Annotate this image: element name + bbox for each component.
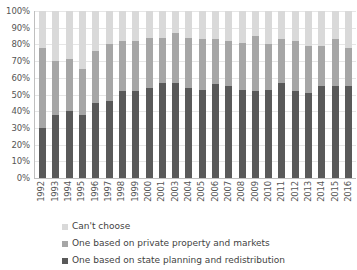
bar-column[interactable]: [63, 11, 76, 178]
bar-column[interactable]: [76, 11, 89, 178]
bar-segment: [265, 44, 272, 89]
x-axis-tick-label: 2000: [144, 181, 153, 202]
x-axis-tick: 1995: [75, 181, 88, 215]
bar-column[interactable]: [156, 11, 169, 178]
bar-segment: [292, 91, 299, 178]
bar-segment: [146, 88, 153, 178]
legend-label: Can't choose: [72, 222, 130, 231]
bar-column[interactable]: [49, 11, 62, 178]
bar-column[interactable]: [169, 11, 182, 178]
bar-column[interactable]: [129, 11, 142, 178]
bar-stack: [79, 11, 86, 178]
legend-swatch-icon: [62, 258, 68, 264]
legend-item[interactable]: One based on state planning and redistri…: [0, 252, 357, 269]
bar-column[interactable]: [209, 11, 222, 178]
bar-segment: [52, 61, 59, 114]
plot-area: [34, 11, 356, 179]
bar-segment: [159, 11, 166, 38]
x-axis-tick: 1998: [115, 181, 128, 215]
bar-stack: [39, 11, 46, 178]
bar-column[interactable]: [89, 11, 102, 178]
legend-label: One based on state planning and redistri…: [72, 256, 285, 265]
bar-column[interactable]: [275, 11, 288, 178]
bar-column[interactable]: [142, 11, 155, 178]
bar-column[interactable]: [329, 11, 342, 178]
bar-segment: [106, 11, 113, 44]
bar-segment: [79, 69, 86, 114]
bar-segment: [292, 11, 299, 41]
bar-column[interactable]: [302, 11, 315, 178]
x-axis-tick: 2015: [328, 181, 341, 215]
x-axis-tick-label: 2015: [331, 181, 340, 202]
bar-stack: [132, 11, 139, 178]
x-axis-tick: 1993: [48, 181, 61, 215]
bar-segment: [172, 33, 179, 83]
bar-segment: [212, 39, 219, 84]
bar-stack: [52, 11, 59, 178]
bar-segment: [52, 115, 59, 178]
bar-column[interactable]: [249, 11, 262, 178]
x-axis-tick: 2014: [315, 181, 328, 215]
bar-segment: [278, 83, 285, 178]
bar-stack: [292, 11, 299, 178]
bar-column[interactable]: [36, 11, 49, 178]
y-axis-tick-label: 60%: [11, 74, 30, 83]
bar-column[interactable]: [289, 11, 302, 178]
y-axis-tick-label: 70%: [11, 57, 30, 66]
bar-column[interactable]: [235, 11, 248, 178]
bar-column[interactable]: [182, 11, 195, 178]
bar-stack: [199, 11, 206, 178]
bar-segment: [332, 86, 339, 178]
bar-segment: [159, 83, 166, 178]
bar-column[interactable]: [116, 11, 129, 178]
bar-stack: [159, 11, 166, 178]
x-axis-tick-label: 2010: [264, 181, 273, 202]
bar-segment: [345, 48, 352, 86]
bar-column[interactable]: [196, 11, 209, 178]
x-axis-tick: 2000: [142, 181, 155, 215]
bar-column[interactable]: [102, 11, 115, 178]
bar-segment: [345, 86, 352, 178]
x-axis-tick-label: 2008: [237, 181, 246, 202]
x-axis-tick: 1992: [35, 181, 48, 215]
bar-segment: [305, 11, 312, 46]
bar-segment: [106, 101, 113, 178]
bar-segment: [239, 43, 246, 90]
bar-segment: [119, 11, 126, 41]
bar-segment: [66, 59, 73, 111]
legend-swatch-icon: [62, 241, 68, 247]
x-axis-tick-label: 1997: [104, 181, 113, 202]
plot-wrapper: 0%10%20%30%40%50%60%70%80%90%100% 199219…: [0, 0, 357, 182]
bar-stack: [146, 11, 153, 178]
bar-segment: [265, 90, 272, 179]
x-axis-tick: 2003: [168, 181, 181, 215]
bar-column[interactable]: [222, 11, 235, 178]
bar-segment: [119, 91, 126, 178]
bar-column[interactable]: [315, 11, 328, 178]
x-axis-tick: 2016: [342, 181, 355, 215]
bar-column[interactable]: [262, 11, 275, 178]
x-axis-tick: 1997: [102, 181, 115, 215]
bar-segment: [79, 11, 86, 69]
bar-segment: [239, 90, 246, 179]
bar-column[interactable]: [342, 11, 355, 178]
bar-segment: [52, 11, 59, 61]
stacked-bar-chart: 0%10%20%30%40%50%60%70%80%90%100% 199219…: [0, 0, 357, 270]
legend-item[interactable]: Can't choose: [0, 218, 357, 235]
bar-segment: [185, 88, 192, 178]
x-axis-tick: 2008: [235, 181, 248, 215]
bar-segment: [318, 46, 325, 86]
x-axis-tick: 2006: [208, 181, 221, 215]
legend-item[interactable]: One based on private property and market…: [0, 235, 357, 252]
bar-segment: [119, 41, 126, 91]
bar-segment: [318, 86, 325, 178]
y-axis-tick-label: 20%: [11, 140, 30, 149]
x-axis-tick-label: 1993: [51, 181, 60, 202]
bar-segment: [159, 38, 166, 83]
x-axis: 1992199319941995199619971998199920002001…: [34, 181, 356, 215]
bar-segment: [199, 39, 206, 89]
bar-segment: [305, 93, 312, 178]
x-axis-tick-label: 2012: [291, 181, 300, 202]
bar-segment: [92, 51, 99, 103]
bar-segment: [252, 36, 259, 91]
